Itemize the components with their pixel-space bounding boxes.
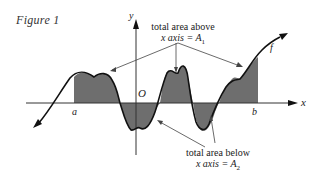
arrowhead-icon — [110, 67, 116, 72]
annotation-area-below: total area below x axis = A2 — [179, 147, 257, 174]
annotation-area-above: total area above x axis = A1 — [143, 21, 223, 48]
interval-end-label: b — [252, 106, 257, 117]
annotation-above-line1: total area above — [143, 21, 223, 32]
annotation-below-line1: total area below — [179, 147, 257, 158]
curve-right-arrow-icon — [279, 33, 288, 40]
figure-caption: Figure 1 — [16, 13, 60, 28]
origin-label: O — [138, 88, 146, 99]
annotation-below-subscript: 2 — [237, 164, 241, 172]
shaded-area-above-2 — [160, 66, 193, 103]
interval-start-label: a — [72, 106, 77, 117]
arrowhead-icon — [236, 62, 243, 67]
x-axis-label: x — [301, 97, 306, 108]
y-axis-label: y — [129, 10, 133, 21]
annotation-above-line2-text: x axis = A — [161, 32, 202, 43]
y-axis-arrow-icon — [133, 19, 139, 29]
annotation-below-line2: x axis = A2 — [179, 158, 257, 174]
arrowhead-icon — [157, 120, 163, 125]
figure-1: Figure 1 y x O a b f total area above x … — [0, 0, 313, 175]
annotation-above-line2: x axis = A1 — [143, 32, 223, 48]
annotation-above-subscript: 1 — [202, 38, 206, 46]
function-label: f — [270, 42, 273, 53]
x-axis-arrow-icon — [288, 100, 298, 106]
pointer-a2-right — [211, 118, 215, 143]
annotation-below-line2-text: x axis = A — [196, 158, 237, 169]
shaded-area-above-1 — [74, 72, 120, 103]
